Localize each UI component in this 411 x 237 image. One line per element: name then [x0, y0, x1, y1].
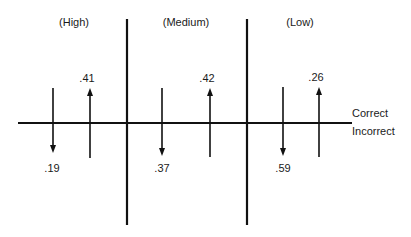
value-label-low-correct: .26 [308, 72, 323, 83]
value-label-high-correct: .41 [79, 73, 94, 84]
diagram-canvas [0, 0, 411, 237]
axis-label-correct: Correct [352, 108, 388, 119]
category-label-high: (High) [59, 17, 89, 28]
correct-incorrect-diagram: (High) (Medium) (Low) .41 .42 .26 .19 .3… [0, 0, 411, 237]
category-label-medium: (Medium) [163, 17, 209, 28]
arrow-down-icon [50, 88, 56, 153]
value-label-medium-correct: .42 [199, 73, 214, 84]
value-label-low-incorrect: .59 [275, 163, 290, 174]
value-label-high-incorrect: .19 [44, 163, 59, 174]
category-label-low: (Low) [286, 17, 314, 28]
arrow-down-icon [280, 87, 286, 156]
axis-label-incorrect: Incorrect [352, 126, 395, 137]
value-label-medium-incorrect: .37 [154, 163, 169, 174]
